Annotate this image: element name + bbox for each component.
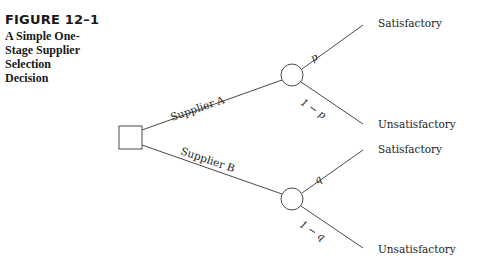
probability-1-minus-q: 1 − q <box>298 218 327 242</box>
branch-label-supplier-a: Supplier A <box>169 93 227 123</box>
outcome-b-satisfactory-line <box>302 150 363 193</box>
outcome-label-a-unsatisfactory: Unsatisfactory <box>378 118 456 130</box>
chance-node-a-circle <box>281 64 303 86</box>
outcome-label-b-unsatisfactory: Unsatisfactory <box>378 243 456 255</box>
decision-tree: Supplier A Supplier B p 1 − p q 1 − q Sa… <box>0 0 481 269</box>
branch-supplier-b-line <box>142 145 282 194</box>
outcome-label-a-satisfactory: Satisfactory <box>378 17 442 29</box>
chance-node-b-circle <box>281 188 303 210</box>
outcome-label-b-satisfactory: Satisfactory <box>378 143 442 155</box>
decision-node-square <box>119 126 142 149</box>
probability-1-minus-p: 1 − p <box>299 96 329 121</box>
branch-label-supplier-b: Supplier B <box>179 145 237 175</box>
outcome-a-satisfactory-line <box>302 25 363 69</box>
